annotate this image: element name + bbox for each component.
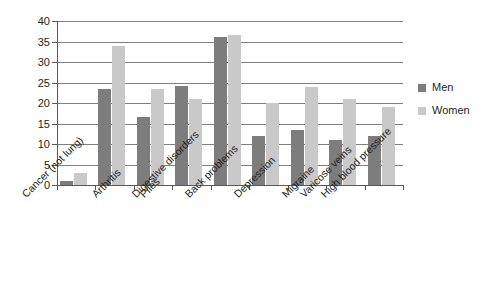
y-tick-label: 35 bbox=[0, 37, 50, 48]
legend-item-men[interactable]: Men bbox=[418, 82, 470, 93]
bar-group bbox=[288, 21, 326, 185]
bar-group bbox=[172, 21, 210, 185]
x-tick-mark bbox=[57, 185, 58, 190]
y-tick-label: 10 bbox=[0, 139, 50, 150]
x-tick-mark bbox=[172, 185, 173, 190]
bar-women bbox=[228, 35, 241, 185]
y-tick-label: 30 bbox=[0, 57, 50, 68]
bar-men bbox=[60, 181, 73, 185]
y-tick-label: 40 bbox=[0, 16, 50, 27]
legend-swatch-women-icon bbox=[418, 107, 426, 115]
x-tick-mark bbox=[403, 185, 404, 190]
bar-group bbox=[365, 21, 403, 185]
bar-chart-figure: 0510152025303540 Cancer (not lung)Arthri… bbox=[0, 0, 490, 286]
bar-women bbox=[74, 173, 87, 185]
legend-item-women[interactable]: Women bbox=[418, 105, 470, 116]
bar-women bbox=[382, 107, 395, 185]
y-tick-label: 15 bbox=[0, 119, 50, 130]
bar-women bbox=[266, 103, 279, 185]
y-tick-label: 25 bbox=[0, 78, 50, 89]
legend-swatch-men-icon bbox=[418, 84, 426, 92]
y-tick-label: 20 bbox=[0, 98, 50, 109]
legend-label-men: Men bbox=[432, 82, 453, 93]
x-tick-mark bbox=[211, 185, 212, 190]
chart-legend: Men Women bbox=[418, 82, 470, 128]
bar-group bbox=[95, 21, 133, 185]
legend-label-women: Women bbox=[432, 105, 470, 116]
bar-women bbox=[112, 46, 125, 185]
x-tick-mark bbox=[365, 185, 366, 190]
